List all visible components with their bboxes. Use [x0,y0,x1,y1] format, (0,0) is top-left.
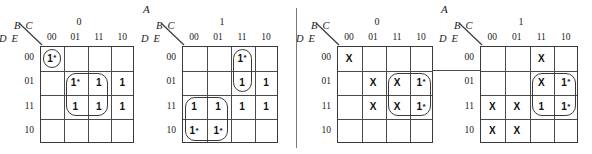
kmap-cell-4-r1c3: 1* [554,70,579,94]
kmap-cell-2-r2c1: 1 [206,95,230,119]
kmap-cell-2-r1c2: 1 [230,70,254,94]
kmap-cell-2-r1c3: 1 [254,70,278,94]
kmap-cell-4-r3c2 [529,119,554,143]
kmap-cell-3-r3c3 [409,119,433,143]
kmap-cell-3-r2c0 [337,95,361,119]
kmap-cell-2-r0c2: 1* [230,46,254,70]
column-tick-4-10: 10 [554,32,578,42]
column-tick-3-00: 00 [337,32,361,42]
kmap-cell-4-r3c1: X [505,119,530,143]
kmap-cell-2-r2c0: 1 [182,95,206,119]
row-variables-label-2: D E [141,33,161,44]
kmap-cell-4-r1c2: X [529,70,554,94]
kmap-cell-2-r3c1: 1* [206,119,230,143]
kmap-cell-1-r1c0 [40,70,64,94]
row-tick-1-10: 10 [16,125,34,135]
kmap-cell-4-r3c3 [554,119,579,143]
kmap-cell-1-r3c0 [40,119,64,143]
row-tick-2-00: 00 [158,52,176,62]
column-tick-2-11: 11 [230,32,254,42]
row-tick-4-00: 00 [456,52,474,62]
kmap-cell-4-r0c0 [480,46,505,70]
a-value-3: 0 [367,16,387,27]
column-tick-4-00: 00 [480,32,504,42]
kmap-cell-4-r2c2: 1 [529,95,554,119]
row-tick-1-11: 11 [16,101,34,111]
kmap-cell-3-r2c1: X [361,95,385,119]
column-tick-2-00: 00 [182,32,206,42]
kmap-cell-3-r3c0 [337,119,361,143]
kmap-cell-2-r1c0 [182,70,206,94]
row-variables-label-4: D E [439,33,459,44]
kmap-cell-3-r3c2 [385,119,409,143]
kmap-cell-2-r3c0: 1* [182,119,206,143]
column-tick-4-01: 01 [505,32,529,42]
row-tick-2-11: 11 [158,101,176,111]
kmap-cell-4-r2c3: 1* [554,95,579,119]
row-tick-4-11: 11 [456,101,474,111]
kmap-cell-1-r1c1: 1* [64,70,88,94]
row-tick-1-00: 00 [16,52,34,62]
column-tick-1-00: 00 [40,32,64,42]
kmap-cell-1-r2c1: 1 [64,95,88,119]
kmap-cell-4-r0c1 [505,46,530,70]
row-tick-4-10: 10 [456,125,474,135]
kmap-figure: 0B CD E00011110000111101*1*11111A1B CD E… [0,0,592,154]
kmap-cell-4-r1c0 [480,70,505,94]
kmap-cell-3-r2c2: X [385,95,409,119]
kmap-cell-3-r1c2: X [385,70,409,94]
kmap-cell-1-r2c2: 1 [87,95,111,119]
pair-divider [296,8,297,148]
kmap-cell-3-r1c0 [337,70,361,94]
column-tick-1-01: 01 [63,32,87,42]
kmap-cell-2-r0c3 [254,46,278,70]
row-tick-3-11: 11 [313,101,331,111]
column-tick-3-11: 11 [385,32,409,42]
kmap-cell-1-r1c2: 1 [87,70,111,94]
column-tick-1-11: 11 [87,32,111,42]
row-tick-3-01: 01 [313,76,331,86]
column-tick-3-01: 01 [361,32,385,42]
kmap-cell-4-r0c2: X [529,46,554,70]
map3-map4-connector [432,70,480,71]
kmap-cell-1-r1c3: 1 [111,70,135,94]
kmap-cell-1-r3c2 [87,119,111,143]
kmap-cell-1-r2c3: 1 [111,95,135,119]
kmap-cell-1-r2c0 [40,95,64,119]
kmap-cell-4-r1c1 [505,70,530,94]
kmap-cell-1-r0c1 [64,46,88,70]
kmap-cell-2-r0c0 [182,46,206,70]
kmap-cell-2-r3c3 [254,119,278,143]
kmap-cell-3-r2c3: 1* [409,95,433,119]
kmap-cell-4-r3c0: X [480,119,505,143]
kmap-cell-1-r3c1 [64,119,88,143]
kmap-cell-4-r2c1: X [505,95,530,119]
row-variables-label-3: D E [296,33,316,44]
row-tick-2-10: 10 [158,125,176,135]
row-tick-3-10: 10 [313,125,331,135]
a-value-4: 1 [511,16,531,27]
kmap-cell-2-r1c1 [206,70,230,94]
row-tick-4-01: 01 [456,76,474,86]
kmap-cell-1-r0c0: 1* [40,46,64,70]
a-variable-label: A [143,3,150,15]
kmap-cell-3-r0c3 [409,46,433,70]
kmap-cell-2-r3c2 [230,119,254,143]
kmap-cell-2-r2c3: 1 [254,95,278,119]
kmap-cell-4-r0c3 [554,46,579,70]
kmap-cell-3-r0c2 [385,46,409,70]
column-tick-4-11: 11 [529,32,553,42]
kmap-cell-3-r1c3: 1* [409,70,433,94]
kmap-cell-2-r2c2: 1 [230,95,254,119]
row-tick-1-01: 01 [16,76,34,86]
kmap-cell-3-r1c1: X [361,70,385,94]
column-tick-2-01: 01 [206,32,230,42]
row-tick-3-00: 00 [313,52,331,62]
kmap-cell-2-r0c1 [206,46,230,70]
kmap-cell-3-r3c1 [361,119,385,143]
a-value-1: 0 [69,16,89,27]
kmap-cell-1-r3c3 [111,119,135,143]
column-tick-3-10: 10 [409,32,433,42]
kmap-cell-3-r0c0: X [337,46,361,70]
column-tick-1-10: 10 [110,32,134,42]
